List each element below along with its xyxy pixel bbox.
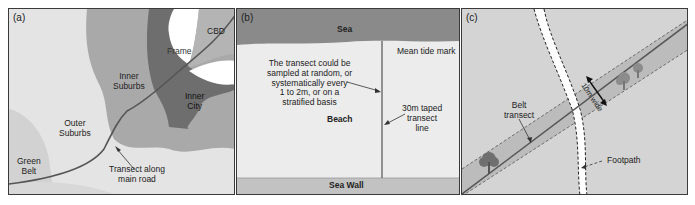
inner-city-line-2: City xyxy=(185,102,204,112)
frame-label: Frame xyxy=(167,47,192,57)
panel-label: (c) xyxy=(466,12,478,23)
outer-suburbs-line-2: Suburbs xyxy=(59,129,91,139)
panel-c-belt-transect: (c) Belt transect 10m wide Footpath xyxy=(461,8,688,195)
footpath-label: Footpath xyxy=(607,156,641,166)
beach-label: Beach xyxy=(327,115,353,125)
sea-wall-label: Sea Wall xyxy=(329,181,364,191)
cbd-label: CBD xyxy=(207,27,225,37)
inner-suburbs-label: Inner Suburbs xyxy=(113,72,145,92)
transect-line-3: line xyxy=(402,124,442,134)
green-belt-line-2: Belt xyxy=(17,167,41,177)
panel-b-beach-transect: (b) Sea Mean tide mark The transect coul… xyxy=(236,8,460,195)
belt-transect-diagram xyxy=(462,9,688,195)
belt-line-2: transect xyxy=(504,111,534,121)
note-line-5: stratified basis xyxy=(267,98,352,108)
sea-label: Sea xyxy=(337,25,352,35)
green-belt-label: Green Belt xyxy=(17,157,41,177)
sampling-note: The transect could be sampled at random,… xyxy=(267,59,352,108)
annotation-line-2: main road xyxy=(109,175,165,185)
transect-annotation: Transect along main road xyxy=(109,165,165,185)
panel-label: (b) xyxy=(241,12,253,23)
belt-transect-label: Belt transect xyxy=(504,101,534,121)
outer-suburbs-label: Outer Suburbs xyxy=(59,119,91,139)
mean-tide-mark-label: Mean tide mark xyxy=(397,47,456,57)
panel-label: (a) xyxy=(13,12,25,23)
transect-line-label: 30m taped transect line xyxy=(402,104,442,133)
inner-suburbs-line-2: Suburbs xyxy=(113,82,145,92)
panel-a-urban-transect: (a) CBD Frame Inner Suburbs Inner City O… xyxy=(8,8,235,195)
inner-city-label: Inner City xyxy=(185,92,204,112)
